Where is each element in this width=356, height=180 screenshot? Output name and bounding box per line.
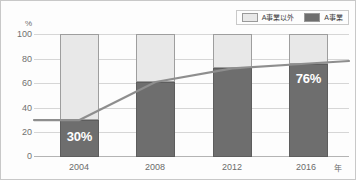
y-axis-unit: % — [25, 19, 32, 28]
y-tick-60: 60 — [4, 78, 32, 88]
bar-value-label-2004: 30% — [61, 129, 98, 144]
bar-group-2012[interactable] — [213, 34, 252, 157]
y-tick-40: 40 — [4, 103, 32, 113]
bar-group-2016[interactable]: 76% — [289, 34, 328, 157]
y-tick-20: 20 — [4, 127, 32, 137]
y-tick-0: 0 — [4, 151, 32, 161]
chart-container: A事業以外 A事業 % 30% — [0, 0, 356, 180]
legend-item-a-business: A事業 — [304, 13, 343, 22]
bar-value-label-2016: 76% — [290, 71, 327, 86]
y-tick-100: 100 — [4, 29, 32, 39]
bar-segment-a-business-2004: 30% — [60, 120, 99, 157]
x-tick-2004: 2004 — [54, 162, 104, 172]
bar-segment-other-2016 — [289, 34, 328, 64]
bar-segment-other-2004 — [60, 34, 99, 120]
bar-segment-a-business-2012 — [213, 68, 252, 157]
bar-group-2004[interactable]: 30% — [60, 34, 99, 157]
legend-label-other: A事業以外 — [262, 13, 295, 22]
legend-label-a-business: A事業 — [324, 13, 343, 22]
bar-segment-a-business-2008 — [136, 82, 175, 157]
bar-group-2008[interactable] — [136, 34, 175, 157]
x-axis-unit: 年 — [334, 162, 342, 173]
x-tick-2008: 2008 — [130, 162, 180, 172]
bar-segment-other-2008 — [136, 34, 175, 82]
legend-swatch-light — [242, 13, 258, 22]
x-tick-2012: 2012 — [207, 162, 257, 172]
chart-legend: A事業以外 A事業 — [236, 10, 349, 25]
x-tick-2016: 2016 — [281, 162, 331, 172]
plot-area: 30% 76% — [34, 34, 349, 157]
bar-segment-a-business-2016: 76% — [289, 64, 328, 158]
y-tick-80: 80 — [4, 54, 32, 64]
legend-item-other: A事業以外 — [242, 13, 295, 22]
legend-swatch-dark — [304, 13, 320, 22]
bar-segment-other-2012 — [213, 34, 252, 68]
y-axis-ticks: 100 80 60 40 20 0 — [1, 34, 32, 157]
